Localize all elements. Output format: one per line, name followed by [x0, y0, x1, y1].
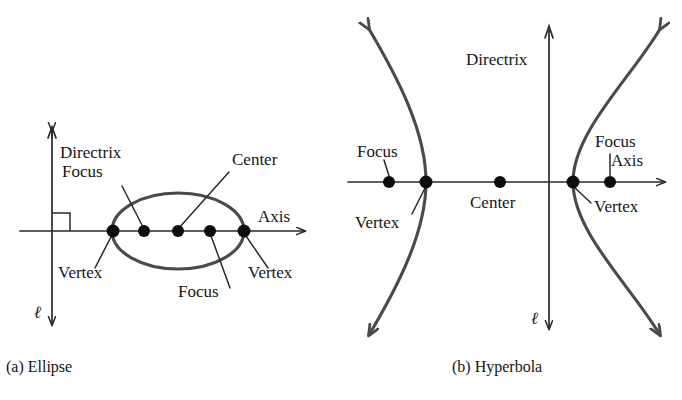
hyperbola-label-line-ell: ℓ [531, 309, 538, 328]
ellipse-label-line-ell: ℓ [34, 303, 41, 322]
figure-canvas: Directrix Axis ℓ Focus Center Vertex Foc… [0, 0, 682, 400]
hyperbola-caption: (b) Hyperbola [452, 358, 542, 376]
hyperbola-label-axis: Axis [611, 151, 643, 170]
hyperbola-label-directrix: Directrix [466, 50, 528, 69]
ellipse-caption: (a) Ellipse [6, 358, 72, 376]
ellipse-label-vertex-right: Vertex [248, 263, 293, 282]
ellipse-leader-focus-right [210, 233, 230, 288]
ellipse-leader-center [178, 172, 229, 229]
hyperbola-point-focus-left [383, 176, 395, 188]
ellipse-point-vertex-right [238, 225, 251, 238]
ellipse-label-directrix: Directrix [60, 143, 122, 162]
hyperbola-point-center [494, 176, 506, 188]
conic-sections-figure: Directrix Axis ℓ Focus Center Vertex Foc… [0, 0, 682, 400]
hyperbola-label-focus-left: Focus [357, 142, 398, 161]
hyperbola-label-vertex-right: Vertex [594, 197, 639, 216]
hyperbola-point-vertex-right [567, 176, 580, 189]
panel-hyperbola: Directrix Axis ℓ Focus Vertex Center Ver… [348, 26, 665, 376]
hyperbola-point-vertex-left [420, 176, 433, 189]
ellipse-point-focus-right [204, 225, 216, 237]
hyperbola-label-center: Center [470, 193, 516, 212]
hyperbola-label-focus-right: Focus [595, 132, 636, 151]
hyperbola-label-vertex-left: Vertex [355, 213, 400, 232]
ellipse-label-vertex-left: Vertex [58, 263, 103, 282]
ellipse-label-focus-left: Focus [62, 162, 103, 181]
ellipse-point-vertex-left [107, 225, 120, 238]
hyperbola-leader-focus-left [384, 160, 389, 176]
ellipse-right-angle-mark [52, 213, 70, 231]
ellipse-point-center [172, 225, 184, 237]
panel-ellipse: Directrix Axis ℓ Focus Center Vertex Foc… [6, 127, 305, 376]
ellipse-point-focus-left [138, 225, 150, 237]
ellipse-label-center: Center [232, 150, 278, 169]
hyperbola-point-focus-right [604, 176, 616, 188]
ellipse-label-focus-right: Focus [178, 282, 219, 301]
ellipse-label-axis: Axis [258, 207, 290, 226]
